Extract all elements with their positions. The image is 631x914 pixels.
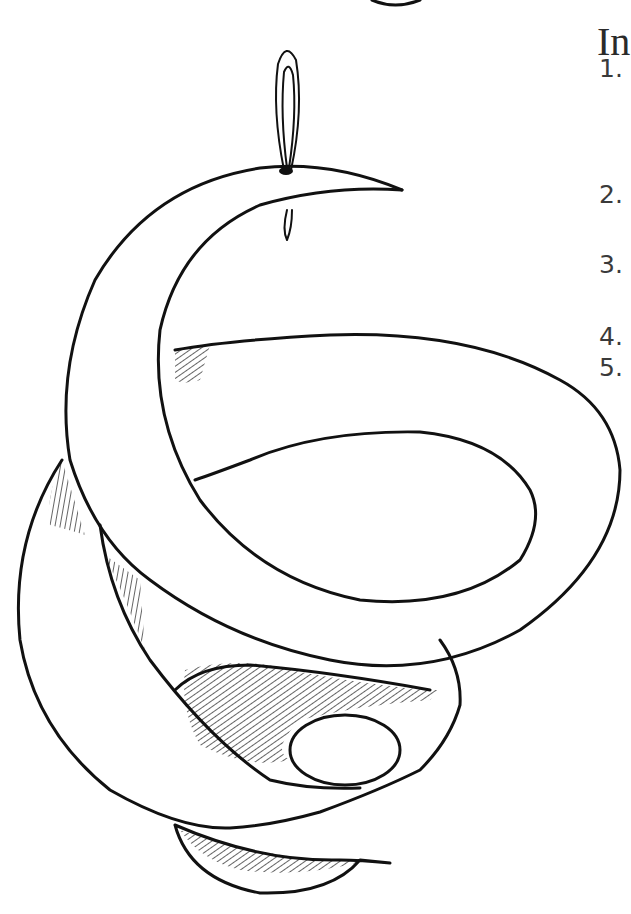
step-number-4: 4.	[599, 322, 623, 351]
spiral-outer-edge	[66, 166, 620, 665]
top-arc-fragment	[372, 0, 420, 5]
step-number-1: 1.	[599, 54, 623, 83]
spiral-mobile-illustration	[0, 0, 631, 914]
spiral-inner-edge	[158, 189, 535, 602]
step-number-5: 5.	[599, 353, 623, 382]
spiral-lower-outer	[18, 460, 460, 828]
step-number-3: 3.	[599, 250, 623, 279]
spiral-oval-hole	[290, 715, 400, 785]
step-number-2: 2.	[599, 180, 623, 209]
loop-knot	[279, 167, 293, 175]
hanging-loop	[276, 51, 299, 170]
